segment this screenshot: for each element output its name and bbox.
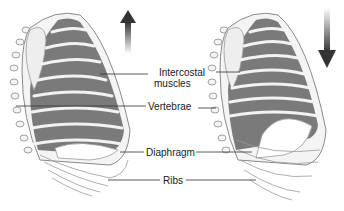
label-intercostal-line1: Intercostal [150,67,214,78]
right-rib-cage [208,8,336,200]
label-ribs: Ribs [163,175,183,186]
down-arrow-icon [318,8,336,68]
label-diaphragm: Diaphragm [146,147,195,158]
left-rib-cage [10,10,136,196]
label-intercostal-line2: muscles [150,78,214,89]
label-vertebrae: Vertebrae [148,101,191,112]
label-intercostal-muscles: Intercostal muscles [150,67,214,89]
up-arrow-icon [120,10,136,54]
